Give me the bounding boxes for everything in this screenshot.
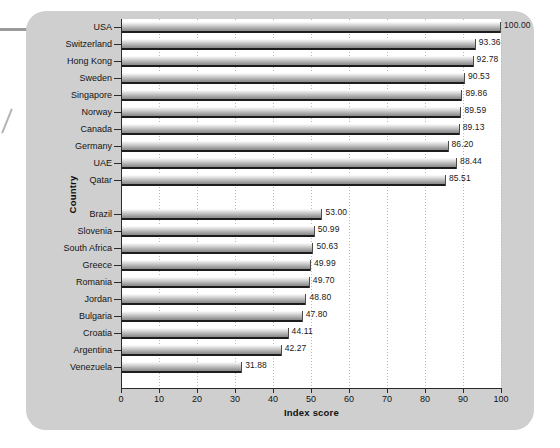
y-axis-tick — [114, 180, 121, 181]
bar-value-label: 44.11 — [292, 326, 313, 336]
bar-value-label: 89.13 — [463, 122, 485, 132]
bar-row: 48.80 — [121, 291, 501, 308]
category-label: Qatar — [22, 175, 112, 185]
category-label: Sweden — [22, 73, 112, 83]
bar-end-cap — [241, 362, 242, 373]
x-axis-tick — [501, 388, 502, 393]
y-axis-tick — [114, 27, 121, 28]
bar-value-label: 49.70 — [313, 275, 335, 285]
category-label: Croatia — [22, 328, 112, 338]
x-axis-tick — [159, 388, 160, 393]
bar — [121, 158, 457, 169]
y-axis-tick — [114, 112, 121, 113]
x-axis-tick-label: 10 — [154, 394, 164, 404]
bar-end-cap — [448, 141, 449, 152]
bar — [121, 90, 462, 101]
bar-end-cap — [310, 260, 311, 271]
category-label: USA — [22, 22, 112, 32]
x-axis-tick — [463, 388, 464, 393]
bar-value-label: 50.99 — [318, 224, 340, 234]
x-axis-tick-label: 90 — [458, 394, 468, 404]
bar — [121, 362, 242, 373]
y-axis-tick — [114, 163, 121, 164]
category-label: Germany — [22, 141, 112, 151]
category-label: Argentina — [22, 345, 112, 355]
bar-end-cap — [312, 243, 313, 254]
y-axis-tick — [114, 265, 121, 266]
bar-end-cap — [459, 124, 460, 135]
bar — [121, 124, 460, 135]
bar-row: 47.80 — [121, 308, 501, 325]
bar-end-cap — [314, 226, 315, 237]
category-label: UAE — [22, 158, 112, 168]
bar-value-label: 31.88 — [245, 360, 267, 370]
x-axis-tick-label: 70 — [382, 394, 392, 404]
bar-row: 89.59 — [121, 104, 501, 121]
bar-row: 49.99 — [121, 257, 501, 274]
plot-area: 100.0093.3692.7890.5389.8689.5989.1386.2… — [121, 19, 501, 388]
category-label: Venezuela — [22, 362, 112, 372]
bar — [121, 345, 282, 356]
x-axis-tick — [311, 388, 312, 393]
category-label: Switzerland — [22, 39, 112, 49]
bar-row: 49.70 — [121, 274, 501, 291]
category-label: Brazil — [22, 209, 112, 219]
bar-row: 100.00 — [121, 19, 501, 36]
category-label: Canada — [22, 124, 112, 134]
x-axis-tick-label: 80 — [420, 394, 430, 404]
bar-end-cap — [309, 277, 310, 288]
y-axis-tick — [114, 282, 121, 283]
bar — [121, 294, 306, 305]
bar-end-cap — [305, 294, 306, 305]
bar — [121, 226, 315, 237]
category-label: Jordan — [22, 294, 112, 304]
x-axis-tick — [349, 388, 350, 393]
x-axis-tick — [387, 388, 388, 393]
x-axis-tick — [235, 388, 236, 393]
bar-value-label: 93.36 — [479, 37, 501, 47]
bar-end-cap — [475, 39, 476, 50]
bar-rows: 100.0093.3692.7890.5389.8689.5989.1386.2… — [121, 19, 501, 388]
bar-row: 44.11 — [121, 325, 501, 342]
row-spacer — [121, 189, 501, 206]
bar-end-cap — [461, 90, 462, 101]
bar-row: 50.63 — [121, 240, 501, 257]
x-axis-tick — [197, 388, 198, 393]
y-axis-tick — [114, 146, 121, 147]
x-axis-tick-label: 30 — [230, 394, 240, 404]
bar-row: 88.44 — [121, 155, 501, 172]
y-axis-tick — [114, 231, 121, 232]
category-label: Greece — [22, 260, 112, 270]
y-axis-tick — [114, 299, 121, 300]
y-axis-tick — [114, 316, 121, 317]
y-axis-tick — [114, 95, 121, 96]
bar-end-cap — [460, 107, 461, 118]
x-axis-title: Index score — [121, 407, 502, 418]
bar — [121, 56, 474, 67]
bar-end-cap — [456, 158, 457, 169]
category-label: Bulgaria — [22, 311, 112, 321]
bar-row: 53.00 — [121, 206, 501, 223]
x-axis-tick-label: 40 — [268, 394, 278, 404]
y-axis-tick — [114, 61, 121, 62]
bar — [121, 39, 476, 50]
bar-end-cap — [302, 311, 303, 322]
y-axis-tick — [114, 214, 121, 215]
x-axis-tick — [121, 388, 122, 393]
bar — [121, 175, 446, 186]
bar-end-cap — [281, 345, 282, 356]
bar-row: 93.36 — [121, 36, 501, 53]
bar-value-label: 49.99 — [314, 258, 336, 268]
y-axis-tick — [114, 350, 121, 351]
bar-end-cap — [288, 328, 289, 339]
bar — [121, 22, 501, 33]
category-label: Singapore — [22, 90, 112, 100]
bar-end-cap — [445, 175, 446, 186]
y-axis-tick — [114, 78, 121, 79]
bar-value-label: 89.59 — [464, 105, 486, 115]
bar — [121, 311, 303, 322]
bar-value-label: 90.53 — [468, 71, 490, 81]
bar — [121, 277, 310, 288]
bar — [121, 73, 465, 84]
bar — [121, 260, 311, 271]
